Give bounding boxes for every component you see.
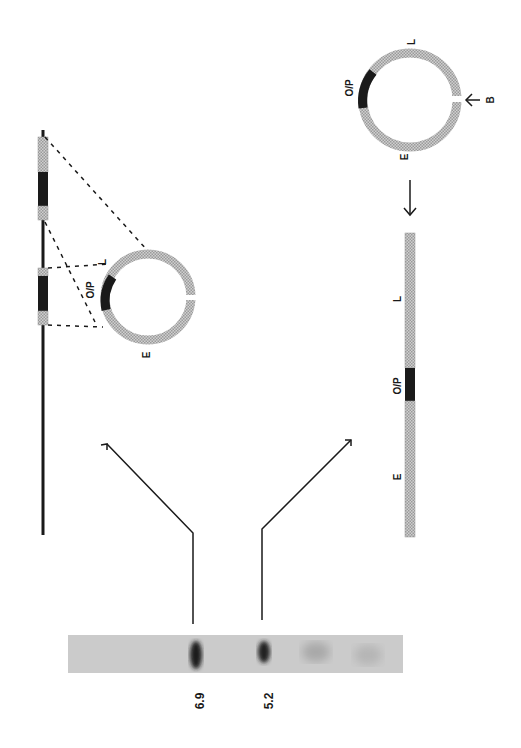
- genomic-map: [38, 130, 48, 535]
- label-e: E: [392, 473, 403, 480]
- gel-background: [68, 635, 403, 673]
- conversion-arrow: [404, 180, 416, 215]
- faint-band: [354, 645, 382, 665]
- linear-l-region: [405, 233, 415, 368]
- projection-lines: [45, 137, 147, 327]
- label-op: O/P: [85, 281, 96, 299]
- op-region: [105, 277, 112, 310]
- plasmid-ring: [105, 254, 191, 340]
- label-e: E: [141, 351, 152, 358]
- label-op: O/P: [344, 79, 355, 97]
- linear-map: L O/P E: [392, 233, 415, 537]
- band-label-6-9: 6.9: [193, 692, 207, 709]
- faint-band: [302, 642, 330, 662]
- band-6-9: [190, 641, 202, 669]
- linear-e-region: [405, 401, 415, 537]
- op-region: [363, 72, 373, 108]
- cut-site-gap: [186, 295, 196, 300]
- insert-upper-hatched-top: [38, 137, 48, 172]
- band-label-5-2: 5.2: [262, 692, 276, 709]
- label-e: E: [399, 153, 410, 160]
- arrow-band-6-9: [107, 444, 193, 624]
- dashed-line: [45, 137, 147, 250]
- label-site: B: [485, 96, 496, 103]
- dashed-line: [45, 222, 95, 322]
- dashed-line: [48, 325, 103, 327]
- band-arrows: [101, 440, 351, 624]
- arrow-band-5-2: [262, 440, 351, 620]
- cut-site-gap: [451, 96, 463, 102]
- label-l: L: [406, 39, 417, 45]
- insert-lower-dark: [38, 276, 48, 311]
- gel-strip: [68, 635, 403, 673]
- insert-lower-hatched-top: [38, 268, 48, 276]
- plasmid-ring: [363, 53, 457, 147]
- plasmid-left: L O/P E: [85, 254, 196, 358]
- insert-lower-hatched-bottom: [38, 311, 48, 325]
- diagram-canvas: L O/P E L O/P E B L O/P E: [0, 0, 521, 748]
- label-l: L: [97, 259, 108, 265]
- label-op: O/P: [392, 377, 403, 395]
- arrow-head-icon: [101, 444, 107, 450]
- insert-upper-hatched-bottom: [38, 206, 48, 220]
- band-5-2: [258, 641, 270, 663]
- plasmid-right: L O/P E B: [344, 39, 496, 160]
- linear-op-region: [405, 368, 415, 401]
- insert-upper-dark: [38, 172, 48, 206]
- label-l: L: [392, 296, 403, 302]
